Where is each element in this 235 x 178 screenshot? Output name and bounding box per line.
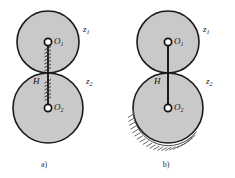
label-b-h: H — [153, 76, 161, 86]
center-marker-b-upper — [164, 38, 171, 45]
center-marker-a-lower — [44, 104, 51, 111]
center-marker-a-upper — [44, 38, 51, 45]
panel-a: O1 O2 z1 z2 H a) — [13, 11, 93, 169]
panel-b: O1 O2 z1 z2 H b) — [128, 11, 213, 169]
figure-canvas: O1 O2 z1 z2 H a) — [0, 0, 235, 178]
figure-root: O1 O2 z1 z2 H a) — [0, 0, 235, 178]
label-a-z1: z1 — [82, 24, 90, 35]
label-b-z2: z2 — [205, 76, 213, 87]
label-a-h: H — [32, 76, 40, 86]
caption-a: a) — [41, 160, 48, 169]
label-a-z2: z2 — [85, 76, 93, 87]
label-b-z1: z1 — [202, 24, 210, 35]
caption-b: b) — [163, 160, 170, 169]
center-marker-b-lower — [164, 104, 171, 111]
